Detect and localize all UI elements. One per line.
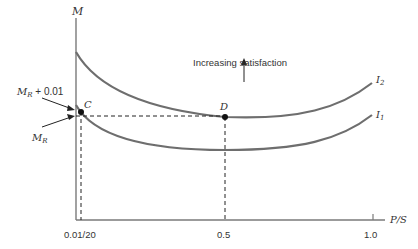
point-d-label: D (219, 101, 228, 112)
x-tick-label-2: 0.5 (217, 229, 230, 240)
point-d (222, 114, 228, 120)
arrow-mr (42, 117, 71, 127)
indifference-diagram: M P/S 0.01/20 0.5 1.0 MR + 0.01 MR C D I… (0, 0, 418, 249)
x-tick-label-1: 0.01/20 (64, 229, 96, 240)
curve-i2-label: I2 (375, 74, 385, 87)
arrow-mr-plus (42, 98, 72, 109)
curve-i1-label: I1 (375, 109, 384, 122)
arrowhead-mr (67, 114, 75, 120)
y-axis-label: M (71, 5, 84, 18)
increasing-satisfaction-label: Increasing satisfaction (193, 57, 287, 68)
mr-plus-label: MR + 0.01 (16, 86, 64, 99)
x-tick-label-3: 1.0 (364, 229, 377, 240)
x-axis-label: P/S (389, 214, 407, 225)
mr-label: MR (31, 132, 48, 145)
point-c-label: C (84, 99, 92, 110)
arrowhead-mr-plus (67, 105, 75, 111)
